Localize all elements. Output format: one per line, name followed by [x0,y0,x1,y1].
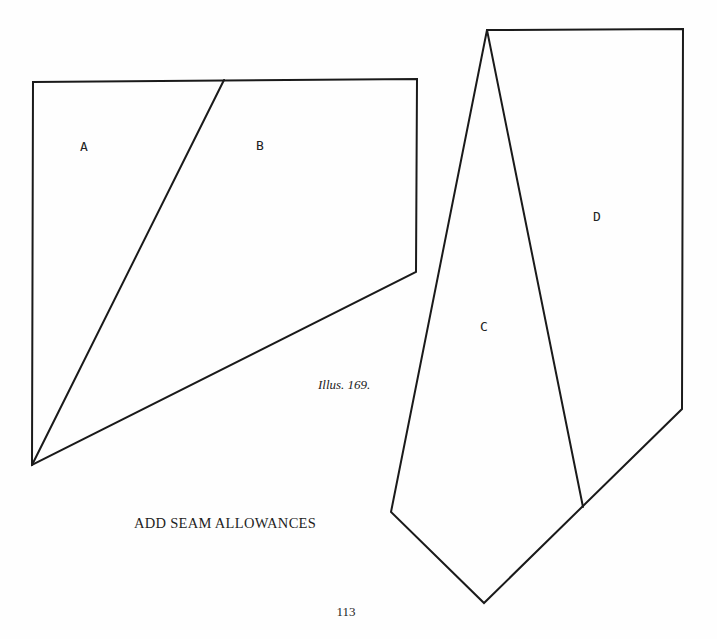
divider-line-c-d [487,30,583,507]
divider-line-a-b [32,80,224,465]
pattern-outline-ab [32,79,417,465]
page-number: 113 [336,605,355,618]
figure-caption: Illus. 169. [318,378,370,391]
pattern-group-ab [32,79,417,465]
book-page: A B C D Illus. 169. ADD SEAM ALLOWANCES … [0,0,717,639]
piece-label-a: A [80,140,88,153]
piece-label-c: C [480,320,488,333]
pattern-outline-cd [391,29,683,603]
pattern-group-cd [391,29,683,603]
piece-label-b: B [256,139,264,152]
instruction-text: ADD SEAM ALLOWANCES [134,516,316,531]
piece-label-d: D [593,210,601,223]
pattern-diagram [0,0,717,639]
